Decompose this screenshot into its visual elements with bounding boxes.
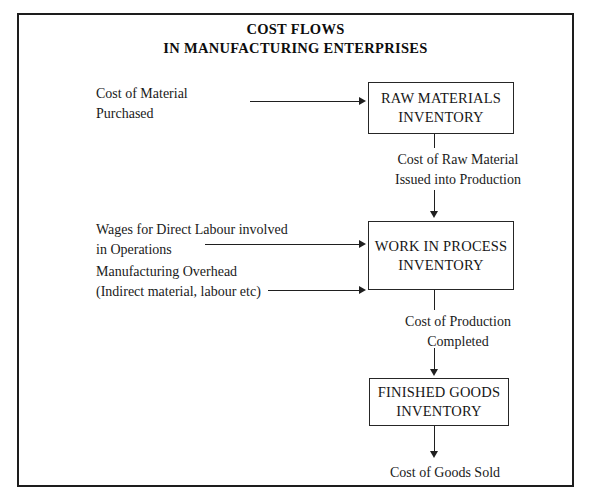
- diagram-title-line-2: IN MANUFACTURING ENTERPRISES: [17, 39, 574, 58]
- label-cost-of-raw-material-issued-line-2: Issued into Production: [384, 170, 532, 190]
- box-raw-materials-inventory-line-2: INVENTORY: [398, 108, 483, 127]
- label-cost-of-goods-sold: Cost of Goods Sold: [370, 463, 520, 483]
- arrow-head-right-icon-overhead: [359, 286, 366, 294]
- box-finished-goods-inventory: FINISHED GOODS INVENTORY: [369, 378, 509, 426]
- box-finished-goods-inventory-line-1: FINISHED GOODS: [378, 383, 500, 402]
- label-manufacturing-overhead-line-2: (Indirect material, labour etc): [96, 282, 261, 302]
- label-cost-of-material-purchased: Cost of Material Purchased: [96, 84, 188, 123]
- arrow-head-down-icon-wip-to-finished: [430, 369, 438, 376]
- label-cost-of-material-purchased-line-1: Cost of Material: [96, 84, 188, 104]
- arrow-material-purchased-to-raw-materials: [250, 101, 360, 102]
- box-raw-materials-inventory-line-1: RAW MATERIALS: [381, 89, 501, 108]
- label-cost-of-material-purchased-line-2: Purchased: [96, 104, 188, 124]
- connector-raw-materials-to-work-in-process-lower: [434, 190, 435, 212]
- box-raw-materials-inventory: RAW MATERIALS INVENTORY: [368, 82, 514, 134]
- diagram-title-line-1: COST FLOWS: [17, 20, 574, 39]
- label-cost-of-production-completed-line-1: Cost of Production: [384, 312, 532, 332]
- arrow-head-right-icon-material-purchased: [359, 97, 366, 105]
- arrow-head-right-icon-wages: [359, 240, 366, 248]
- label-manufacturing-overhead-line-1: Manufacturing Overhead: [96, 262, 261, 282]
- connector-work-in-process-to-finished-goods-upper: [434, 290, 435, 310]
- label-cost-of-production-completed-line-2: Completed: [384, 332, 532, 352]
- label-cost-of-raw-material-issued: Cost of Raw Material Issued into Product…: [384, 150, 532, 189]
- label-cost-of-production-completed: Cost of Production Completed: [384, 312, 532, 351]
- arrow-overhead-to-work-in-process: [268, 290, 360, 291]
- box-work-in-process-inventory-line-2: INVENTORY: [398, 256, 483, 275]
- connector-raw-materials-to-work-in-process-upper: [434, 134, 435, 148]
- label-wages-for-direct-labour-line-1: Wages for Direct Labour involved: [96, 220, 288, 240]
- arrow-head-down-icon-finished-to-cogs: [430, 451, 438, 458]
- connector-finished-goods-to-cost-of-goods-sold: [434, 426, 435, 452]
- box-work-in-process-inventory-line-1: WORK IN PROCESS: [375, 237, 508, 256]
- box-finished-goods-inventory-line-2: INVENTORY: [396, 402, 481, 421]
- label-manufacturing-overhead: Manufacturing Overhead (Indirect materia…: [96, 262, 261, 301]
- arrow-head-down-icon-raw-to-wip: [430, 211, 438, 218]
- label-wages-for-direct-labour: Wages for Direct Labour involved in Oper…: [96, 220, 288, 259]
- connector-work-in-process-to-finished-goods-lower: [434, 348, 435, 370]
- label-cost-of-raw-material-issued-line-1: Cost of Raw Material: [384, 150, 532, 170]
- diagram-title: COST FLOWS IN MANUFACTURING ENTERPRISES: [17, 20, 574, 58]
- box-work-in-process-inventory: WORK IN PROCESS INVENTORY: [368, 221, 514, 290]
- arrow-wages-to-work-in-process: [205, 244, 360, 245]
- cost-flow-diagram: COST FLOWS IN MANUFACTURING ENTERPRISES …: [0, 0, 591, 503]
- label-wages-for-direct-labour-line-2: in Operations: [96, 240, 288, 260]
